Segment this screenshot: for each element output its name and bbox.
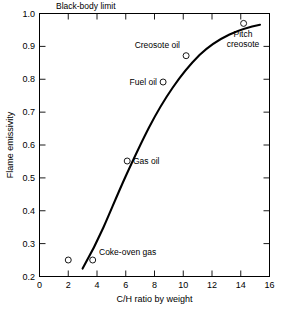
- data-markers: [65, 20, 246, 263]
- y-tick-labels: 0.2 0.3 0.4 0.5 0.6 0.7 0.8 0.9 1.0: [22, 9, 35, 282]
- label-pitch-creosote-line2: creosote: [227, 39, 260, 49]
- x-tick-label: 10: [178, 280, 188, 290]
- emissivity-curve: [83, 25, 260, 269]
- x-tick-label: 8: [152, 280, 157, 290]
- y-axis-title: Flame emissivity: [5, 111, 15, 178]
- y-tick-label: 0.8: [22, 74, 35, 84]
- flame-emissivity-chart: 0 2 4 6 8 10 12 14 16 0.2 0.3 0.4 0.5 0.…: [0, 0, 290, 311]
- x-tick-label: 4: [94, 280, 99, 290]
- x-axis-ticks: [40, 271, 270, 277]
- y-tick-label: 0.3: [22, 239, 35, 249]
- x-tick-label: 16: [264, 280, 274, 290]
- x-tick-label: 0: [37, 280, 42, 290]
- x-tick-label: 6: [123, 280, 128, 290]
- data-marker-gas-oil: [124, 158, 130, 164]
- x-tick-label: 12: [207, 280, 217, 290]
- data-marker-unlabeled: [65, 257, 71, 263]
- plot-frame: [40, 14, 270, 277]
- data-marker-coke-oven-gas: [90, 257, 96, 263]
- label-pitch-creosote-line1: Pitch: [234, 29, 253, 39]
- x-axis-ticks-top: [68, 14, 241, 20]
- data-marker-creosote-oil: [183, 53, 189, 59]
- x-axis-title: C/H ratio by weight: [116, 294, 193, 304]
- data-marker-fuel-oil: [160, 79, 166, 85]
- x-tick-label: 2: [66, 280, 71, 290]
- y-tick-label: 0.2: [22, 272, 35, 282]
- chart-canvas: 0 2 4 6 8 10 12 14 16 0.2 0.3 0.4 0.5 0.…: [0, 0, 290, 311]
- label-gas-oil: Gas oil: [133, 156, 160, 166]
- y-tick-label: 0.6: [22, 140, 35, 150]
- y-axis-ticks: [40, 14, 46, 277]
- y-tick-label: 0.4: [22, 206, 35, 216]
- y-tick-label: 0.9: [22, 41, 35, 51]
- y-tick-label: 0.5: [22, 173, 35, 183]
- label-creosote-oil: Creosote oil: [135, 40, 180, 50]
- label-coke-oven-gas: Coke-oven gas: [99, 247, 156, 257]
- x-tick-label: 14: [236, 280, 246, 290]
- black-body-limit-label: Black-body limit: [56, 1, 116, 11]
- y-axis-ticks-right: [264, 46, 270, 243]
- data-marker-pitch-creosote: [241, 20, 247, 26]
- y-tick-label: 0.7: [22, 107, 35, 117]
- label-fuel-oil: Fuel oil: [130, 77, 158, 87]
- y-tick-label: 1.0: [22, 9, 35, 19]
- x-tick-labels: 0 2 4 6 8 10 12 14 16: [37, 280, 275, 290]
